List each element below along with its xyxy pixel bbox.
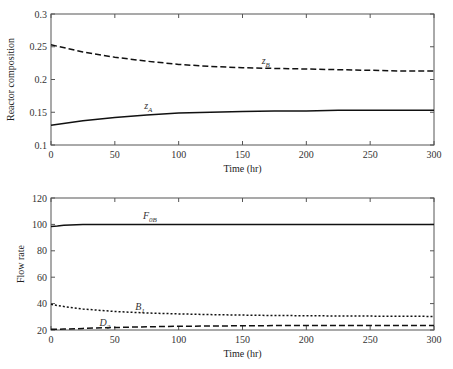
y-tick-label: 60: [37, 272, 47, 283]
y-tick-label: 120: [32, 193, 47, 204]
x-tick-label: 50: [110, 334, 120, 345]
y-axis-title: Reactor composition: [5, 38, 16, 121]
x-tick-label: 250: [363, 334, 378, 345]
y-tick-label: 0.1: [35, 140, 48, 151]
x-tick-label: 150: [235, 149, 250, 160]
plot-frame: [51, 14, 434, 145]
series-label-D2: D2: [99, 317, 111, 331]
y-axis-title: Flow rate: [15, 244, 26, 283]
series-line-B1: [51, 304, 434, 316]
series-line-zA: [51, 110, 434, 125]
plot-frame: [51, 198, 434, 330]
reactor-composition-chart: 0501001502002503000.10.150.20.250.3Time …: [5, 9, 442, 176]
y-tick-label: 0.15: [30, 107, 48, 118]
chart-figure: 0501001502002503000.10.150.20.250.3Time …: [0, 0, 453, 369]
x-tick-label: 300: [427, 149, 442, 160]
x-tick-label: 50: [110, 149, 120, 160]
y-tick-label: 80: [37, 245, 47, 256]
flow-rate-chart: 05010015020025030020406080100120Time (hr…: [15, 193, 442, 361]
y-tick-label: 0.2: [35, 74, 48, 85]
x-tick-label: 200: [299, 149, 314, 160]
series-label-F0B: F0B: [142, 210, 158, 224]
series-line-F0B: [51, 224, 434, 226]
series-line-zB: [51, 45, 434, 71]
y-tick-label: 100: [32, 219, 47, 230]
x-tick-label: 250: [363, 149, 378, 160]
x-tick-label: 0: [49, 149, 54, 160]
x-axis-title: Time (hr): [223, 163, 261, 175]
x-tick-label: 200: [299, 334, 314, 345]
y-tick-label: 0.25: [30, 41, 48, 52]
series-label-zA: zA: [143, 100, 153, 114]
x-tick-label: 100: [171, 149, 186, 160]
y-tick-label: 40: [37, 298, 47, 309]
series-label-zB: zB: [261, 55, 271, 69]
y-tick-label: 0.3: [35, 9, 48, 20]
x-tick-label: 100: [171, 334, 186, 345]
x-tick-label: 300: [427, 334, 442, 345]
x-tick-label: 0: [49, 334, 54, 345]
x-axis-title: Time (hr): [223, 348, 261, 360]
y-tick-label: 20: [37, 325, 47, 336]
x-tick-label: 150: [235, 334, 250, 345]
